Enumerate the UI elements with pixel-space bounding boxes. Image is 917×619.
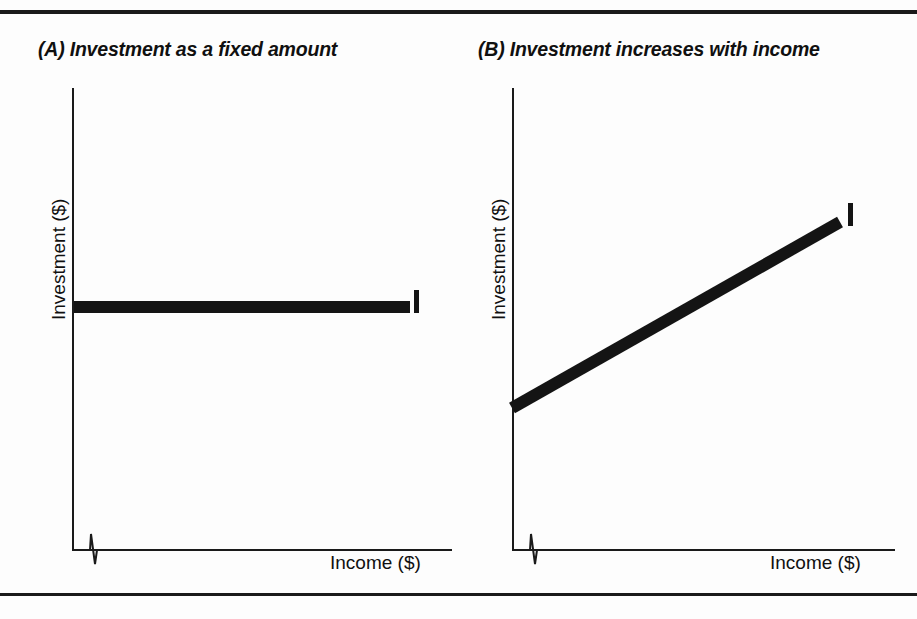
panel-b-title: (B) Investment increases with income [478, 38, 820, 61]
panel-a-investment-line [74, 301, 410, 313]
panel-b-investment-line [506, 190, 846, 420]
panel-a-x-axis-label: Income ($) [330, 552, 421, 574]
panel-a-curve-label-i [414, 290, 419, 313]
panel-a-title: (A) Investment as a fixed amount [38, 38, 337, 61]
panel-b-curve-label-i [848, 203, 853, 226]
panel-b: (B) Investment increases with income Inv… [458, 0, 917, 619]
figure-container: (A) Investment as a fixed amount Investm… [0, 0, 917, 619]
panel-a-y-axis [72, 88, 74, 550]
panel-b-x-axis [512, 549, 895, 551]
panel-a-y-axis-label: Investment ($) [48, 199, 70, 320]
panel-b-axis-break-icon [522, 528, 548, 568]
panel-a-axis-break-icon [82, 528, 108, 568]
panel-a-x-axis [72, 549, 452, 551]
panel-b-x-axis-label: Income ($) [770, 552, 861, 574]
panel-a: (A) Investment as a fixed amount Investm… [0, 0, 458, 619]
